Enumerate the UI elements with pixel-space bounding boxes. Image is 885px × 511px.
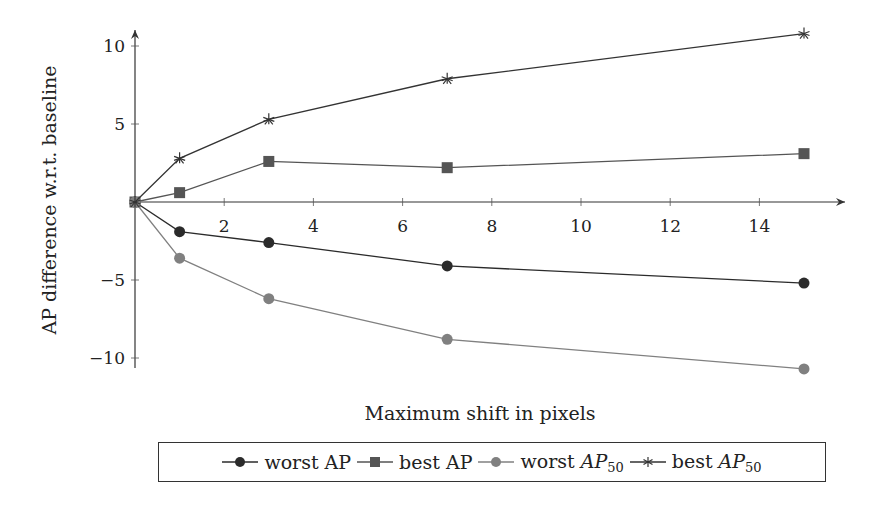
series-best-ap [130, 148, 810, 207]
y-axis-label: AP difference w.r.t. baseline [38, 66, 60, 336]
legend-label: best AP50 [672, 450, 762, 475]
data-point [799, 363, 810, 374]
x-tick-label: 6 [397, 216, 408, 236]
legend-label: best AP [399, 451, 472, 473]
data-point [174, 226, 185, 237]
square-marker-icon [357, 455, 393, 469]
series-layer [130, 28, 810, 375]
x-tick-label: 2 [219, 216, 230, 236]
series-worst-ap [130, 197, 810, 289]
legend-item-worst-ap: worst AP [222, 451, 351, 473]
legend-label: worst AP50 [520, 450, 623, 475]
x-tick-label: 4 [308, 216, 319, 236]
legend-item-best-ap: best AP [357, 451, 472, 473]
x-tick-label: 14 [749, 216, 771, 236]
legend: worst AP best AP worst AP50 best AP50 [158, 442, 826, 482]
y-tick-label: −5 [100, 270, 125, 290]
data-point [442, 334, 453, 345]
legend-item-worst-ap50: worst AP50 [478, 450, 623, 475]
y-tick-label: −10 [89, 348, 125, 368]
legend-label: worst AP [264, 451, 351, 473]
circle-marker-icon [478, 455, 514, 469]
x-axis-label: Maximum shift in pixels [364, 402, 595, 424]
data-point [263, 156, 274, 167]
legend-item-best-ap50: best AP50 [630, 450, 762, 475]
x-tick-label: 8 [486, 216, 497, 236]
data-point [263, 237, 274, 248]
data-point [442, 260, 453, 271]
data-point [799, 148, 810, 159]
circle-marker-icon [222, 455, 258, 469]
x-tick-label: 10 [570, 216, 592, 236]
y-tick-label: 10 [103, 36, 125, 56]
data-point [442, 162, 453, 173]
y-tick-label: 5 [114, 114, 125, 134]
series-worst-ap50 [130, 197, 810, 375]
data-point [174, 187, 185, 198]
x-tick-label: 12 [659, 216, 681, 236]
data-point [263, 293, 274, 304]
data-point [799, 278, 810, 289]
star-marker-icon [630, 455, 666, 469]
axes: 2468101214−10−5510 [89, 30, 845, 368]
series-best-ap50 [130, 28, 810, 207]
line-chart: 2468101214−10−5510 Maximum shift in pixe… [0, 0, 885, 440]
data-point [799, 28, 810, 39]
data-point [174, 253, 185, 264]
